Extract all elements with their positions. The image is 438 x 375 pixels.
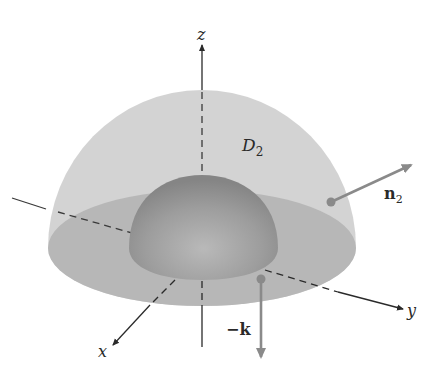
axis-line-back-left: [12, 198, 46, 209]
x-axis: [113, 305, 150, 345]
y-axis: [338, 292, 403, 309]
diagram-canvas: z y x D2 n2 −k: [0, 0, 438, 375]
y-axis-label: y: [406, 301, 417, 320]
x-axis-label: x: [98, 342, 107, 361]
n2-label: n2: [384, 184, 403, 206]
z-axis-label: z: [196, 25, 206, 44]
neg-k-label: −k: [226, 320, 251, 339]
